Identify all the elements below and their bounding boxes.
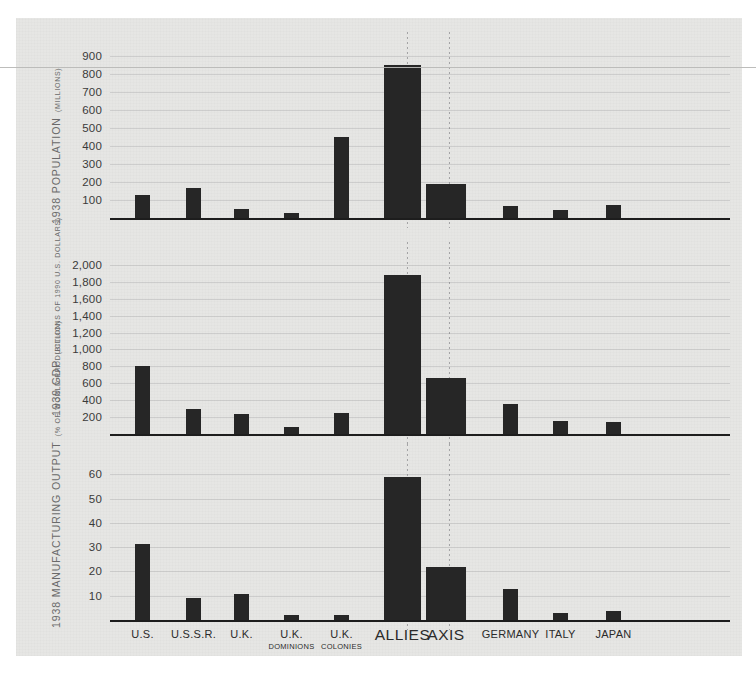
bar-u-s [135, 195, 150, 218]
y-axis-tick-label: 700 [82, 86, 102, 98]
y-axis-tick-label: 400 [82, 394, 102, 406]
x-axis-label-line1: ITALY [545, 628, 575, 640]
y-axis-tick-label: 1,400 [72, 310, 102, 322]
bar-italy [553, 210, 568, 218]
bar-axis [426, 378, 466, 434]
y-axis-tick-label: 200 [82, 411, 102, 423]
x-axis-line [110, 434, 730, 436]
y-axis-units-text: (% OF WORLD PRODUCTION) [54, 321, 61, 437]
bar-japan [606, 611, 621, 620]
plot-area-gdp: 2004006008001,0001,2001,4001,6001,8002,0… [110, 248, 730, 434]
y-axis-tick-label: 50 [89, 493, 102, 505]
x-axis-label-u-s: U.S. [131, 624, 154, 642]
bar-italy [553, 613, 568, 620]
y-axis-tick-label: 1,600 [72, 293, 102, 305]
x-axis-label-italy: ITALY [545, 624, 575, 642]
x-axis-label-line1: U.S. [131, 628, 154, 640]
bar-allies [384, 477, 421, 620]
x-axis-label-line1: AXIS [427, 626, 464, 643]
bar-japan [606, 422, 621, 434]
gridline [110, 474, 730, 475]
x-axis-label-axis: AXIS [427, 626, 464, 644]
bar-u-k-dominions [284, 427, 299, 434]
bar-u-k [234, 594, 249, 620]
y-axis-tick-label: 2,000 [72, 259, 102, 271]
x-axis-label-line1: U.K. [330, 628, 353, 640]
y-axis-tick-label: 200 [82, 176, 102, 188]
bar-allies [384, 275, 421, 434]
y-axis-tick-label: 1,000 [72, 343, 102, 355]
y-axis-tick-label: 600 [82, 104, 102, 116]
x-axis-label-u-k: U.K. [230, 624, 253, 642]
y-axis-tick-label: 40 [89, 517, 102, 529]
bar-u-k [234, 414, 249, 434]
x-axis-label-allies: ALLIES [375, 626, 431, 644]
chart-page: 1938 POPULATION (MILLIONS) 1002003004005… [0, 0, 756, 686]
chart-manufacturing: 1938 MANUFACTURING OUTPUT (% OF WORLD PR… [16, 450, 742, 650]
y-axis-title-population: 1938 POPULATION (MILLIONS) [46, 68, 64, 224]
chart-panel: 1938 POPULATION (MILLIONS) 1002003004005… [16, 18, 742, 656]
y-axis-tick-label: 500 [82, 122, 102, 134]
bar-u-s-s-r [186, 598, 201, 620]
bar-u-k-colonies [334, 413, 349, 434]
x-axis-label-japan: JAPAN [595, 624, 631, 642]
y-axis-tick-label: 400 [82, 140, 102, 152]
bar-germany [503, 404, 518, 434]
chart-population: 1938 POPULATION (MILLIONS) 1002003004005… [16, 38, 742, 223]
y-axis-title-text: 1938 MANUFACTURING OUTPUT [50, 442, 62, 628]
y-axis-tick-label: 100 [82, 194, 102, 206]
y-axis-tick-label: 60 [89, 468, 102, 480]
bar-germany [503, 206, 518, 218]
plot-area-manufacturing: 102030405060 [110, 450, 730, 620]
bar-u-k-colonies [334, 137, 349, 218]
bar-u-s [135, 544, 150, 620]
bar-u-k [234, 209, 249, 218]
x-axis-label-u-s-s-r: U.S.S.R. [171, 624, 216, 642]
y-axis-tick-label: 30 [89, 541, 102, 553]
y-axis-tick-label: 800 [82, 68, 102, 80]
chart-gdp: 1939 GDP (BILLIONS OF 1990 U.S. DOLLARS)… [16, 248, 742, 438]
bar-germany [503, 589, 518, 620]
x-axis-line [110, 620, 730, 622]
x-axis-label-line2: DOMINIONS [268, 642, 314, 651]
gridline [110, 265, 730, 266]
x-axis-label-line1: U.K. [230, 628, 253, 640]
x-axis-label-u-k: U.K.DOMINIONS [268, 624, 314, 651]
y-axis-tick-label: 800 [82, 360, 102, 372]
y-axis-tick-label: 1,800 [72, 276, 102, 288]
scan-seam-line [0, 67, 756, 68]
plot-area-population: 100200300400500600700800900 [110, 38, 730, 218]
x-axis-label-line1: ALLIES [375, 626, 431, 643]
y-axis-tick-label: 10 [89, 590, 102, 602]
y-axis-tick-label: 1,200 [72, 327, 102, 339]
x-axis-label-line1: U.S.S.R. [171, 628, 216, 640]
bar-u-s-s-r [186, 409, 201, 434]
bar-u-s-s-r [186, 188, 201, 218]
y-axis-units-text: (MILLIONS) [54, 68, 61, 112]
y-axis-title-text: 1938 POPULATION [50, 117, 62, 224]
y-axis-title-manufacturing: 1938 MANUFACTURING OUTPUT (% OF WORLD PR… [46, 321, 64, 628]
y-axis-tick-label: 300 [82, 158, 102, 170]
y-axis-tick-label: 20 [89, 565, 102, 577]
bar-japan [606, 205, 621, 218]
x-axis-label-line1: GERMANY [482, 628, 540, 640]
bar-axis [426, 567, 466, 620]
bar-allies [384, 65, 421, 218]
x-axis-label-line1: JAPAN [595, 628, 631, 640]
x-axis-label-germany: GERMANY [482, 624, 540, 642]
x-axis-label-line1: U.K. [280, 628, 303, 640]
x-axis-label-u-k: U.K.COLONIES [321, 624, 362, 651]
bar-u-s [135, 366, 150, 434]
bar-italy [553, 421, 568, 434]
x-axis-label-line2: COLONIES [321, 642, 362, 651]
y-axis-tick-label: 900 [82, 50, 102, 62]
y-axis-tick-label: 600 [82, 377, 102, 389]
x-axis-line [110, 218, 730, 220]
gridline [110, 56, 730, 57]
bar-axis [426, 184, 466, 218]
